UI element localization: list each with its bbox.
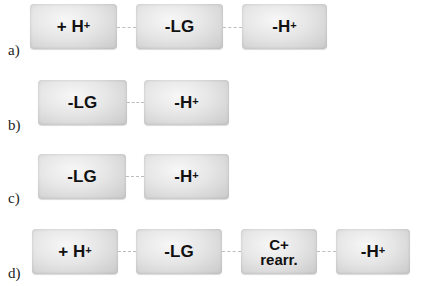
step-text: -H xyxy=(272,17,290,37)
step-leaving-group: -LG xyxy=(136,229,222,274)
step-superscript: + xyxy=(192,95,198,107)
step-text: -LG xyxy=(68,93,97,113)
step-deprotonation: -H+ xyxy=(144,154,229,199)
step-leaving-group: -LG xyxy=(38,154,126,199)
step-protonation: + H+ xyxy=(30,4,117,49)
step-text: + H xyxy=(58,242,85,262)
row-label-d: d) xyxy=(8,266,21,281)
step-superscript: + xyxy=(85,244,91,256)
connector xyxy=(317,251,336,252)
row-label-a: a) xyxy=(8,43,20,58)
step-deprotonation: -H+ xyxy=(144,80,229,125)
step-leaving-group: -LG xyxy=(38,80,127,125)
step-carbocation-rearrangement: C+ rearr. xyxy=(241,229,317,274)
connector xyxy=(127,102,144,103)
connector xyxy=(117,27,136,28)
step-superscript: + xyxy=(192,169,198,181)
step-text: -LG xyxy=(67,167,96,187)
step-text: -H xyxy=(361,242,379,262)
step-text: -H xyxy=(174,167,192,187)
connector xyxy=(222,251,241,252)
step-superscript: + xyxy=(290,19,296,31)
row-label-b: b) xyxy=(8,118,21,133)
step-text: -H xyxy=(174,93,192,113)
step-leaving-group: -LG xyxy=(136,4,223,49)
step-text-line1: C+ xyxy=(269,237,289,252)
row-label-c: c) xyxy=(8,191,20,206)
connector xyxy=(118,251,136,252)
step-text: + H xyxy=(57,17,84,37)
step-text-line2: rearr. xyxy=(260,252,298,267)
connector xyxy=(126,176,144,177)
step-superscript: + xyxy=(379,244,385,256)
step-text: -LG xyxy=(164,242,193,262)
connector xyxy=(223,27,242,28)
step-deprotonation: -H+ xyxy=(242,4,327,49)
step-protonation: + H+ xyxy=(32,229,118,274)
step-text: -LG xyxy=(165,17,194,37)
step-superscript: + xyxy=(84,19,90,31)
step-deprotonation: -H+ xyxy=(336,229,410,274)
